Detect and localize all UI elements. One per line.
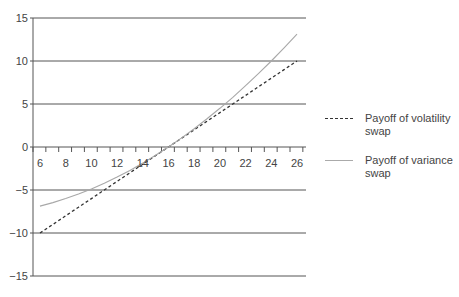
solid-line-swatch-icon	[325, 160, 353, 161]
x-tick-label: 16	[159, 157, 179, 169]
y-tick-label: 5	[4, 98, 28, 110]
x-tick-label: 24	[261, 157, 281, 169]
x-tick-label: 6	[30, 157, 50, 169]
x-tick-label: 12	[107, 157, 127, 169]
chart-plot-area	[0, 0, 459, 297]
legend-label: Payoff of variance swap	[365, 154, 459, 180]
x-tick-label: 18	[184, 157, 204, 169]
x-tick-label: 14	[133, 157, 153, 169]
y-tick-label: −15	[4, 270, 28, 282]
y-tick-label: 0	[4, 141, 28, 153]
legend-label: Payoff of volatility swap	[365, 112, 459, 138]
x-tick-label: 26	[287, 157, 307, 169]
x-tick-label: 22	[236, 157, 256, 169]
x-tick-label: 8	[56, 157, 76, 169]
legend-item-variance-swap: Payoff of variance swap	[325, 154, 459, 180]
series-lines	[40, 34, 297, 233]
dashed-line-swatch-icon	[325, 118, 353, 119]
legend-item-volatility-swap: Payoff of volatility swap	[325, 112, 459, 138]
x-tick-label: 20	[210, 157, 230, 169]
variance-swap-line	[40, 34, 297, 206]
y-tick-label: 15	[4, 12, 28, 24]
y-tick-label: −10	[4, 227, 28, 239]
y-tick-label: 10	[4, 55, 28, 67]
y-tick-label: −5	[4, 184, 28, 196]
x-tick-label: 10	[81, 157, 101, 169]
